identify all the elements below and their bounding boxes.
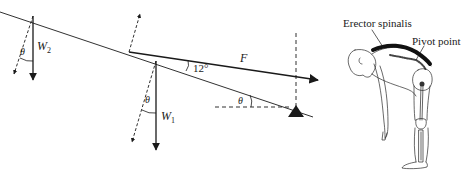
hip-joint	[420, 82, 425, 87]
erector-spinalis-leader-line	[372, 30, 383, 47]
w2-dashed-component-arrow	[14, 16, 33, 74]
pivot-triangle-icon	[288, 105, 304, 117]
w1-theta-label: θ	[145, 94, 150, 105]
thigh-outline-back	[427, 86, 430, 120]
thigh-outline-front	[414, 86, 415, 120]
femur	[420, 86, 423, 120]
shin-outline-back	[426, 128, 428, 162]
w2-label: W2	[37, 39, 51, 55]
free-body-diagram: W2 θ F 12° θ W1 θ	[0, 12, 318, 150]
head-outline	[348, 49, 376, 77]
human-illustration	[348, 30, 432, 169]
w1-dashed-component-arrow	[132, 61, 156, 142]
hand	[382, 132, 387, 140]
erector-spinalis-muscle	[373, 46, 430, 64]
pelvis-outline	[413, 69, 433, 91]
foot	[402, 162, 427, 169]
chest-outline	[372, 74, 416, 96]
pivot-theta-label: θ	[238, 95, 243, 106]
angle-12-arc	[186, 60, 189, 71]
diagram-canvas: W2 θ F 12° θ W1 θ	[0, 0, 472, 173]
normal-dashed-arrow	[129, 14, 140, 52]
arm-outline-back	[374, 64, 385, 138]
arm-outline-front	[380, 66, 388, 138]
erector-spinalis-label: Erector spinalis	[343, 17, 412, 29]
force-f-label: F	[239, 51, 248, 65]
w1-label: W1	[161, 109, 175, 125]
w2-theta-label: θ	[20, 46, 25, 57]
ear-detail	[359, 58, 362, 64]
w2-theta-arc	[20, 58, 33, 61]
angle-12-label: 12°	[193, 62, 208, 74]
pivot-point-label: Pivot point	[412, 35, 461, 47]
shin-outline-front	[414, 128, 416, 162]
force-f-arrow	[129, 52, 318, 80]
w1-theta-arc	[142, 110, 156, 113]
knee	[416, 119, 427, 130]
